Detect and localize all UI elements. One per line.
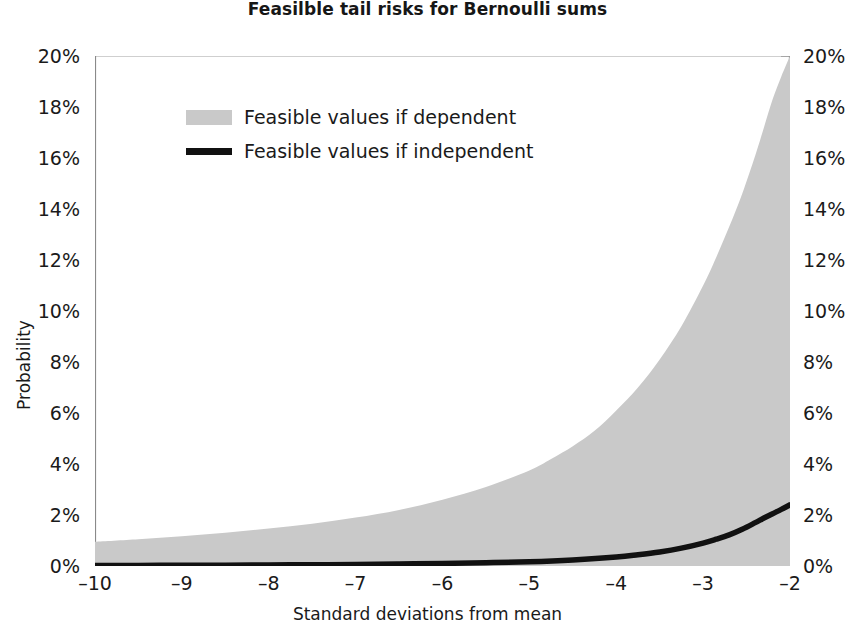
y-tick-label-right: 0% (803, 555, 833, 577)
x-axis-title: Standard deviations from mean (0, 604, 855, 624)
chart-figure: Feasilble tail risks for Bernoulli sums … (0, 0, 855, 627)
line-swatch-icon (186, 148, 232, 155)
x-tick-label: –7 (345, 572, 367, 594)
x-tick-label: –10 (78, 572, 112, 594)
y-tick-label-left: 20% (38, 45, 80, 67)
y-tick-label-right: 12% (803, 249, 845, 271)
y-tick-label-left: 12% (38, 249, 80, 271)
x-tick-label: –6 (432, 572, 454, 594)
y-tick-label-left: 10% (38, 300, 80, 322)
x-tick-label: –4 (605, 572, 627, 594)
area-swatch-icon (186, 110, 232, 125)
y-tick-label-right: 6% (803, 402, 833, 424)
y-tick-label-right: 10% (803, 300, 845, 322)
y-tick-label-right: 16% (803, 147, 845, 169)
y-tick-label-left: 4% (50, 453, 80, 475)
legend-label-dependent: Feasible values if dependent (244, 106, 516, 128)
legend-item-independent: Feasible values if independent (186, 134, 516, 168)
y-tick-label-left: 8% (50, 351, 80, 373)
y-axis-title: Probability (14, 295, 34, 435)
y-tick-label-left: 2% (50, 504, 80, 526)
y-tick-label-right: 20% (803, 45, 845, 67)
y-tick-label-left: 16% (38, 147, 80, 169)
legend-item-dependent: Feasible values if dependent (186, 100, 516, 134)
x-tick-label: –3 (692, 572, 714, 594)
y-tick-label-left: 14% (38, 198, 80, 220)
x-tick-label: –9 (171, 572, 193, 594)
y-tick-label-left: 18% (38, 96, 80, 118)
y-tick-label-left: 6% (50, 402, 80, 424)
x-tick-label: –5 (519, 572, 541, 594)
x-tick-label: –2 (779, 572, 801, 594)
y-tick-label-right: 18% (803, 96, 845, 118)
x-tick-label: –8 (258, 572, 280, 594)
legend-label-independent: Feasible values if independent (244, 140, 533, 162)
y-tick-label-right: 2% (803, 504, 833, 526)
y-axis-left-tick-labels: 0%2%4%6%8%10%12%14%16%18%20% (0, 56, 80, 566)
chart-legend: Feasible values if dependent Feasible va… (186, 100, 516, 168)
y-tick-label-right: 14% (803, 198, 845, 220)
y-tick-label-right: 4% (803, 453, 833, 475)
chart-title: Feasilble tail risks for Bernoulli sums (0, 0, 855, 19)
y-axis-right-tick-labels: 0%2%4%6%8%10%12%14%16%18%20% (803, 56, 855, 566)
y-tick-label-left: 0% (50, 555, 80, 577)
x-axis-tick-labels: –10–9–8–7–6–5–4–3–2 (95, 572, 790, 602)
y-tick-label-right: 8% (803, 351, 833, 373)
